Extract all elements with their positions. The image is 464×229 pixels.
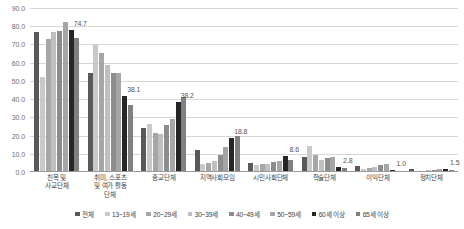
- y-axis-tick: 10.0: [12, 150, 25, 157]
- bar[interactable]: [57, 31, 62, 172]
- bar[interactable]: [51, 32, 56, 172]
- legend-label: 13~19세: [112, 209, 135, 219]
- y-axis-tick: 40.0: [12, 96, 25, 103]
- bar-group: 2.8: [298, 8, 352, 172]
- bar[interactable]: [218, 155, 223, 172]
- bar[interactable]: [99, 53, 104, 172]
- bar-group: 38.2: [137, 8, 191, 172]
- bar[interactable]: [153, 133, 158, 172]
- x-axis-label: 이익단체: [351, 174, 405, 204]
- x-axis-label: 시민사회단체: [244, 174, 298, 204]
- legend-item[interactable]: 50~59세: [270, 209, 300, 219]
- bar[interactable]: [147, 124, 152, 172]
- bar[interactable]: [93, 45, 98, 172]
- y-axis-tick: 80.0: [12, 23, 25, 30]
- x-axis-label: 지역사회모임: [191, 174, 245, 204]
- bar[interactable]: [88, 73, 93, 172]
- x-axis-label: 정치단체: [405, 174, 459, 204]
- legend-swatch-icon: [146, 212, 151, 217]
- legend-item[interactable]: 40~49세: [229, 209, 259, 219]
- legend-item[interactable]: 20~29세: [146, 209, 176, 219]
- x-axis-label: 친목 및사교단체: [30, 174, 84, 204]
- bar[interactable]: [40, 77, 45, 172]
- legend-label: 전체: [82, 209, 94, 219]
- bar[interactable]: [283, 156, 288, 172]
- bar[interactable]: [229, 138, 234, 172]
- legend-label: 30~39세: [195, 209, 218, 219]
- x-axis-label: 취미, 스포츠및 여가 활동단체: [84, 174, 138, 204]
- legend-label: 60세 이상: [319, 209, 345, 219]
- bar-group: 74.7: [30, 8, 84, 172]
- bar[interactable]: [141, 128, 146, 172]
- bar[interactable]: [105, 65, 110, 172]
- y-axis-tick: 0.0: [16, 169, 25, 176]
- x-axis-label: 종교단체: [137, 174, 191, 204]
- chart-legend: 전체13~19세20~29세30~39세40~49세50~59세60세 이상65…: [0, 206, 464, 222]
- legend-swatch-icon: [270, 212, 275, 217]
- y-axis-tick: 60.0: [12, 59, 25, 66]
- bar-group: 8.6: [244, 8, 298, 172]
- y-axis-tick: 20.0: [12, 132, 25, 139]
- legend-swatch-icon: [105, 212, 110, 217]
- x-axis-line: [30, 171, 458, 172]
- legend-item[interactable]: 전체: [75, 209, 94, 219]
- bar-chart: 0.010.020.030.040.050.060.070.080.090.0 …: [0, 0, 464, 229]
- bar[interactable]: [307, 146, 312, 172]
- legend-swatch-icon: [229, 212, 234, 217]
- bar[interactable]: [164, 125, 169, 172]
- legend-item[interactable]: 60세 이상: [312, 209, 345, 219]
- y-axis-tick: 30.0: [12, 114, 25, 121]
- bar[interactable]: [158, 134, 163, 172]
- y-axis: 0.010.020.030.040.050.060.070.080.090.0: [0, 8, 28, 172]
- legend-swatch-icon: [188, 212, 193, 217]
- bar-group: 18.8: [191, 8, 245, 172]
- bar[interactable]: [325, 158, 330, 172]
- bar[interactable]: [111, 73, 116, 172]
- bar[interactable]: [302, 157, 307, 172]
- x-axis-label: 학술단체: [298, 174, 352, 204]
- legend-label: 50~59세: [277, 209, 300, 219]
- bar[interactable]: [176, 102, 181, 172]
- bar-group: 38.1: [84, 8, 138, 172]
- bar-data-label: 1.5: [450, 159, 459, 166]
- bar[interactable]: [63, 22, 68, 172]
- plot-area: 74.738.138.218.88.62.81.01.5: [30, 8, 458, 172]
- bar[interactable]: [122, 96, 127, 172]
- bar-group: 1.0: [351, 8, 405, 172]
- bar[interactable]: [116, 73, 121, 172]
- legend-item[interactable]: 65세 이상: [356, 209, 389, 219]
- legend-item[interactable]: 30~39세: [188, 209, 218, 219]
- y-axis-tick: 70.0: [12, 41, 25, 48]
- legend-label: 40~49세: [236, 209, 259, 219]
- x-axis-labels: 친목 및사교단체취미, 스포츠및 여가 활동단체종교단체지역사회모임시민사회단체…: [30, 174, 458, 204]
- bar-groups: 74.738.138.218.88.62.81.01.5: [30, 8, 458, 172]
- legend-swatch-icon: [75, 212, 80, 217]
- bar[interactable]: [330, 157, 335, 172]
- bar[interactable]: [74, 38, 79, 172]
- legend-label: 65세 이상: [363, 209, 389, 219]
- bar[interactable]: [313, 155, 318, 172]
- bar[interactable]: [34, 32, 39, 172]
- bar[interactable]: [195, 150, 200, 172]
- bar-group: 1.5: [405, 8, 459, 172]
- y-axis-tick: 50.0: [12, 77, 25, 84]
- bar[interactable]: [170, 119, 175, 172]
- bar[interactable]: [235, 136, 240, 172]
- bar[interactable]: [128, 105, 133, 172]
- legend-swatch-icon: [312, 212, 317, 217]
- y-axis-tick: 90.0: [12, 5, 25, 12]
- bar[interactable]: [181, 97, 186, 172]
- legend-label: 20~29세: [153, 209, 176, 219]
- bar[interactable]: [223, 147, 228, 172]
- legend-swatch-icon: [356, 212, 361, 217]
- bar[interactable]: [69, 30, 74, 172]
- legend-item[interactable]: 13~19세: [105, 209, 135, 219]
- bar[interactable]: [46, 39, 51, 172]
